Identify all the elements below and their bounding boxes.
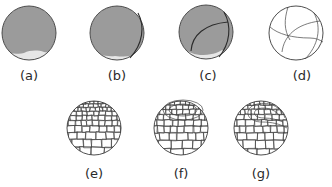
cell bbox=[106, 111, 113, 116]
cell bbox=[115, 107, 120, 111]
cell bbox=[119, 104, 124, 108]
cell bbox=[248, 148, 258, 157]
cell bbox=[70, 147, 80, 155]
cell bbox=[150, 141, 159, 150]
cell bbox=[118, 111, 123, 115]
embryo-development-figure: (a) (b) (c) (d) (e) bbox=[0, 0, 332, 187]
cell bbox=[69, 101, 71, 104]
cell bbox=[205, 105, 210, 110]
cell bbox=[64, 107, 68, 112]
panel-e: (e) bbox=[60, 100, 130, 181]
cell bbox=[237, 119, 246, 126]
cells-e bbox=[60, 100, 130, 156]
label-b: (b) bbox=[108, 68, 126, 83]
cell bbox=[255, 140, 266, 149]
cell bbox=[114, 101, 118, 104]
cell bbox=[278, 148, 289, 158]
cell bbox=[178, 120, 185, 127]
cell bbox=[261, 119, 268, 126]
panel-d: (d) bbox=[269, 6, 323, 83]
cell bbox=[188, 133, 196, 140]
cell bbox=[286, 115, 294, 121]
cell bbox=[104, 147, 118, 156]
cell bbox=[65, 104, 70, 108]
cell bbox=[275, 101, 280, 105]
cell bbox=[60, 132, 68, 139]
cell bbox=[283, 104, 290, 109]
cell bbox=[265, 132, 274, 140]
cell bbox=[265, 140, 273, 149]
cell bbox=[156, 101, 161, 106]
cell bbox=[76, 116, 83, 120]
cell bbox=[157, 120, 164, 126]
cell bbox=[110, 100, 114, 104]
cell bbox=[96, 132, 106, 140]
cell bbox=[193, 140, 202, 149]
cell bbox=[234, 101, 240, 105]
panel-f: (f) bbox=[148, 100, 213, 181]
cell bbox=[119, 139, 131, 148]
cell bbox=[150, 101, 156, 105]
cell bbox=[247, 133, 258, 140]
cell bbox=[196, 132, 204, 140]
cell bbox=[64, 101, 69, 104]
cell bbox=[149, 148, 159, 158]
cell bbox=[91, 139, 102, 147]
cell bbox=[171, 140, 182, 149]
cell bbox=[77, 132, 86, 140]
cell bbox=[169, 133, 177, 141]
cell bbox=[106, 132, 115, 139]
cell bbox=[283, 132, 293, 140]
cell bbox=[121, 125, 130, 132]
label-d: (d) bbox=[293, 68, 311, 83]
cell bbox=[237, 132, 247, 140]
cell bbox=[75, 101, 79, 105]
cell bbox=[71, 104, 75, 108]
cell bbox=[117, 100, 122, 104]
cell bbox=[148, 125, 158, 133]
cell bbox=[156, 105, 162, 109]
cells-g bbox=[228, 100, 295, 158]
cell bbox=[107, 100, 110, 104]
cell bbox=[177, 133, 188, 141]
cell bbox=[239, 101, 244, 105]
cell bbox=[95, 107, 100, 112]
cell bbox=[228, 119, 236, 126]
cell bbox=[112, 104, 116, 108]
panel-b: (b) bbox=[88, 6, 146, 83]
cell bbox=[243, 140, 256, 149]
cell bbox=[230, 149, 240, 158]
label-g: (g) bbox=[252, 166, 270, 181]
cell bbox=[60, 147, 70, 156]
cell bbox=[119, 107, 123, 111]
cell bbox=[246, 125, 254, 133]
cell bbox=[205, 109, 212, 115]
label-f: (f) bbox=[174, 166, 189, 181]
cell bbox=[204, 101, 210, 105]
cell bbox=[115, 104, 119, 107]
label-e: (e) bbox=[85, 166, 103, 181]
cell bbox=[256, 148, 269, 158]
panel-g: (g) bbox=[228, 100, 295, 181]
cell bbox=[81, 120, 87, 125]
cell bbox=[71, 101, 75, 103]
cell bbox=[86, 132, 96, 140]
cell bbox=[285, 101, 290, 105]
cell bbox=[177, 126, 184, 133]
cell bbox=[257, 132, 265, 141]
label-a: (a) bbox=[20, 68, 38, 83]
cell bbox=[239, 149, 248, 158]
cell bbox=[259, 109, 265, 115]
cell bbox=[280, 101, 285, 105]
cell bbox=[115, 126, 121, 132]
cell bbox=[182, 140, 193, 149]
cell bbox=[286, 109, 293, 114]
cell bbox=[159, 133, 169, 141]
cell bbox=[197, 148, 208, 158]
cell bbox=[269, 149, 278, 158]
cell bbox=[254, 126, 263, 133]
cell bbox=[92, 116, 99, 121]
cell bbox=[152, 105, 156, 110]
cell bbox=[255, 120, 262, 127]
cell bbox=[160, 101, 165, 106]
